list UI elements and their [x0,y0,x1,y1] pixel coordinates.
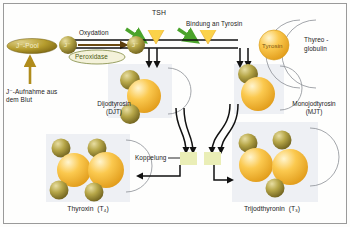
coupling-box-left [180,152,197,165]
diagram-figure: J⁻-Pool J⁻ J⁻ J⁻-Aufnahme aus dem Blut O… [0,0,350,227]
peroxidase-label: Peroxidase [75,53,108,61]
t3-sub: (T₃) [289,205,300,212]
mjt-label-line1: Monojodtyrosin [282,100,346,108]
t4-label: Thyroxin (T₄) [38,205,138,213]
djt-label-line1: Dijodtyrosin [86,100,142,108]
t4-olive-4 [85,183,104,202]
t4-output-arrow [138,165,180,176]
oxydation-label: Oxydation [79,29,109,37]
tyrosine-fork-right [200,30,216,44]
mjt-yellow [241,77,275,111]
mjt-label-line2: (MJT) [282,108,346,116]
tyrosine-fork-left [148,30,164,44]
t3-output-arrow [214,165,232,180]
t3-label: Trijodthyronin (T₃) [212,205,332,213]
thyreoglobulin-arc [282,20,316,88]
coupling-box-right [204,152,221,165]
t3-olive-2 [273,131,292,150]
t4-name: Thyroxin [67,205,93,212]
tyrosine-label: Tyrosin [262,42,283,50]
t3-olive-3 [266,179,285,198]
t4-sub: (T₄) [97,205,108,212]
uptake-label-line1: J⁻-Aufnahme aus [6,88,57,96]
thyreoglobulin-label-line2: globulin [304,45,327,53]
tsh-label: TSH [152,9,166,17]
t3-name: Trijodthyronin [244,205,285,212]
djt-label-line2: (DJT) [86,108,142,116]
thyreoglobulin-label-line1: Thyreo - [304,36,329,44]
uptake-label-line2: dem Blut [6,96,32,104]
iodide-sphere-1-label: J⁻ [64,41,71,49]
iodide-pool-label: J⁻-Pool [16,42,39,50]
t3-yellow-1 [239,148,273,182]
coupling-arrow-3 [212,104,230,152]
t4-olive-3 [50,181,69,200]
iodide-sphere-2-label: J⁻ [132,41,139,49]
binding-label: Bindung an Tyrosin [186,20,242,28]
coupling-label: Koppelung [135,154,166,162]
